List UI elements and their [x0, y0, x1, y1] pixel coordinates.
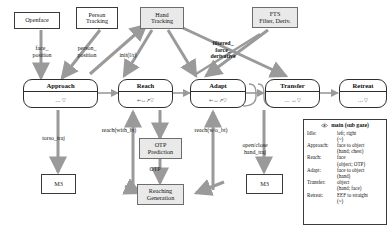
state-gaze-glyphs-transfer: … ↔▽ — [266, 92, 319, 107]
process-box-otp-prediction[interactable]: OTP Prediction — [139, 138, 182, 159]
gaze-glyph-row: … ↔▽ — [284, 97, 300, 103]
legend-title: main (sub gaze) — [331, 122, 369, 128]
state-title-reach: Reach — [119, 80, 172, 91]
state-title-retreat: Retreat — [340, 80, 386, 91]
state-node-retreat[interactable]: Retreat … ▽ — [339, 79, 387, 108]
legend-value: face to object (hand) — [337, 167, 383, 179]
legend-value: object (hand; face) — [337, 179, 383, 191]
legend-key: Retreat: — [307, 192, 337, 204]
gaze-glyph-row: ⇐↔↗▽ — [209, 97, 226, 103]
source-box-fts[interactable]: FTS Filter, Deriv. — [252, 7, 298, 28]
source-label-openface: Openface — [25, 17, 49, 24]
state-gaze-glyphs-reach: ⇐↔↗▽ — [119, 92, 172, 107]
edge-label-open-close-hand-traj: open/close hand_traj — [231, 142, 279, 155]
source-box-openface[interactable]: Openface — [14, 12, 60, 29]
source-label-hand-tracking: Hand Tracking — [151, 12, 173, 25]
sink-box-m3-hand[interactable]: M3 — [246, 174, 283, 194]
legend-key: Approach: — [307, 142, 337, 154]
edge-label-torso-traj: torso_traj — [31, 135, 76, 142]
sink-label-m3-hand: M3 — [260, 181, 269, 188]
state-title-adapt: Adapt — [191, 80, 245, 91]
edge-label-init-lr: init(l/r) — [110, 52, 146, 59]
legend-value: left; right (~) — [337, 130, 383, 142]
edge-label-otp: OTP — [146, 166, 164, 173]
legend-row: Reach: face (object; OTP) — [307, 154, 383, 166]
gaze-glyph-row: … ▽ — [55, 97, 66, 103]
edge-hand-adapt — [168, 30, 196, 76]
state-gaze-glyphs-retreat: … ▽ — [340, 92, 386, 107]
legend-table: Idle: left; right (~) Approach: face to … — [307, 130, 383, 204]
eye-icon — [321, 123, 328, 128]
process-box-reaching-generation[interactable]: Reaching Generation — [137, 184, 184, 205]
source-box-person-tracking[interactable]: Person Tracking — [76, 7, 118, 29]
edge-label-person-position: person_ position — [65, 45, 109, 58]
gaze-glyph-row: … ▽ — [358, 97, 369, 103]
source-label-fts: FTS Filter, Deriv. — [259, 11, 290, 24]
edge-label-face-position: face_ position — [22, 45, 62, 58]
gaze-glyph-row: ⇐↔↗▽ — [137, 97, 154, 103]
diagram-canvas: Openface Person Tracking Hand Tracking F… — [0, 0, 390, 229]
state-title-transfer: Transfer — [266, 80, 319, 91]
legend-value: face (object; OTP) — [337, 154, 383, 166]
state-gaze-glyphs-adapt: ⇐↔↗▽ — [191, 92, 245, 107]
legend-value: EEF to straight (~) — [337, 192, 383, 204]
gaze-legend: main (sub gaze) Idle: left; right (~) Ap… — [303, 119, 387, 225]
edge-label-reach-wo-bt: reach(w/o_bt) — [186, 127, 236, 134]
legend-row: Retreat: EEF to straight (~) — [307, 192, 383, 204]
legend-row: Adapt: face to object (hand) — [307, 167, 383, 179]
state-gaze-glyphs-approach: … ▽ — [24, 92, 97, 107]
legend-header-row: main (sub gaze) — [307, 122, 383, 128]
source-label-person-tracking: Person Tracking — [86, 12, 108, 25]
sink-box-m3-torso[interactable]: M3 — [41, 174, 76, 194]
process-label-otp-prediction: OTP Prediction — [148, 142, 173, 155]
state-node-transfer[interactable]: Transfer … ↔▽ — [265, 79, 320, 108]
state-node-approach[interactable]: Approach … ▽ — [23, 79, 98, 108]
legend-key: Transfer: — [307, 179, 337, 191]
state-node-adapt[interactable]: Adapt ⇐↔↗▽ — [190, 79, 246, 108]
legend-row: Approach: face to object (hand; chest) — [307, 142, 383, 154]
legend-key: Idle: — [307, 130, 337, 142]
process-label-reaching-generation: Reaching Generation — [147, 188, 175, 201]
legend-key: Reach: — [307, 154, 337, 166]
legend-row: Idle: left; right (~) — [307, 130, 383, 142]
legend-row: Transfer: object (hand; face) — [307, 179, 383, 191]
edge-label-reach-with-bt: reach(with_bt) — [94, 127, 144, 134]
edge-into-reaching-right — [196, 182, 224, 193]
legend-key: Adapt: — [307, 167, 337, 179]
edge-label-filtered-force-derivative: filtered_ force_ derivative — [199, 40, 247, 60]
sink-label-m3-torso: M3 — [54, 181, 63, 188]
state-title-approach: Approach — [24, 80, 97, 91]
legend-value: face to object (hand; chest) — [337, 142, 383, 154]
source-box-hand-tracking[interactable]: Hand Tracking — [140, 7, 184, 29]
state-node-reach[interactable]: Reach ⇐↔↗▽ — [118, 79, 173, 108]
